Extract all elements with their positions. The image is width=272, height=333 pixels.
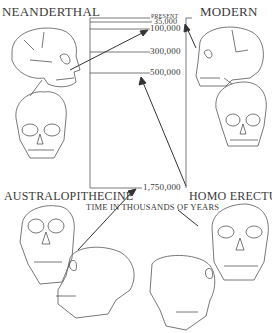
axis-title: TIME IN THOUSANDS OF YEARS xyxy=(86,202,219,212)
label-neanderthal: NEANDERTHAL xyxy=(2,4,100,20)
modern-skull-lateral xyxy=(196,27,263,86)
tick-100000: 100,000 xyxy=(150,23,181,33)
modern-skull-frontal xyxy=(216,78,266,146)
neanderthal-skull-lateral xyxy=(12,28,80,87)
australopithecine-skull-frontal xyxy=(20,206,74,284)
homo-erectus-skull-lateral xyxy=(150,255,215,330)
tick-1750000: 1,750,000 xyxy=(143,182,181,192)
diagram-canvas xyxy=(0,0,272,333)
neanderthal-skull-frontal xyxy=(16,80,66,158)
australopithecine-skull-lateral xyxy=(56,247,134,318)
tick-500000: 500,000 xyxy=(150,67,181,77)
arrows xyxy=(70,24,198,250)
tick-300000: 300,000 xyxy=(150,46,181,56)
homo-erectus-skull-frontal xyxy=(212,204,268,280)
label-modern: MODERN xyxy=(200,4,258,20)
